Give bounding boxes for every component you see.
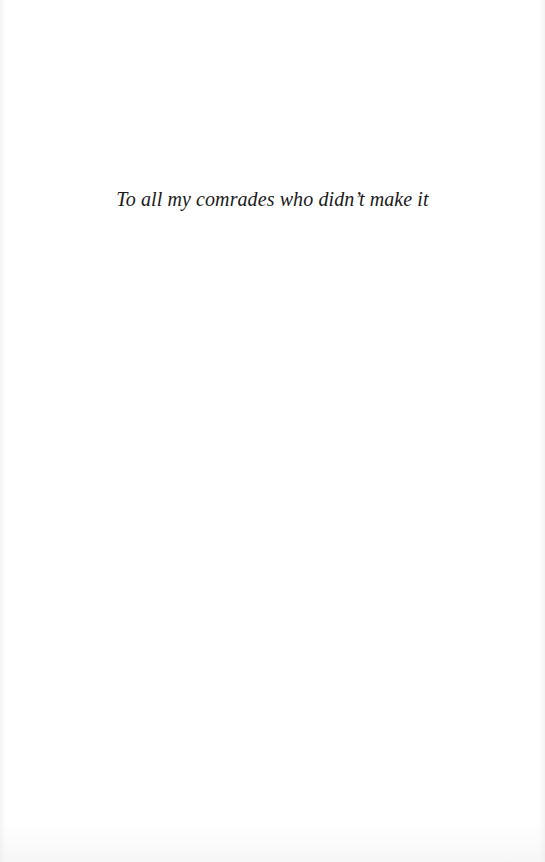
page-edge-left [0,0,6,862]
dedication-text: To all my comrades who didn’t make it [0,186,545,212]
page-edge-right [539,0,545,862]
book-page: To all my comrades who didn’t make it [0,0,545,862]
scan-noise [0,822,545,862]
